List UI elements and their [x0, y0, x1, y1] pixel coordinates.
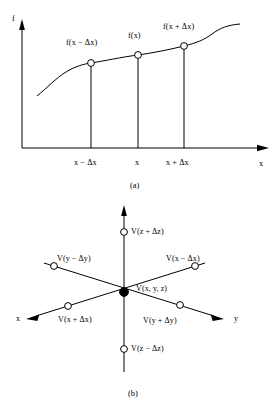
panel-b-label-y-plus: V(y + Δy)	[143, 317, 177, 325]
panel-a-caption: (a)	[130, 181, 139, 190]
panel-a-x-tick-label-3: x + Δx	[166, 159, 189, 167]
panel-b-y-axis-label: y	[234, 315, 238, 323]
panel-b-z-axis-arrowhead	[121, 205, 127, 216]
panel-b-label-center: V(x, y, z)	[136, 285, 167, 293]
panel-a-point-marker-2	[135, 52, 142, 59]
panel-b-label-y-minus: V(y − Δy)	[57, 255, 91, 263]
panel-a-graphics	[19, 19, 269, 151]
panel-b-node-x-plus	[65, 303, 72, 310]
panel-b-label-z-plus: V(z + Δz)	[131, 228, 164, 236]
panel-a-y-axis-arrowhead	[19, 19, 25, 30]
panel-b-label-x-plus: V(x + Δx)	[58, 316, 92, 324]
panel-a-point-marker-3	[181, 43, 188, 50]
panel-b-caption: (b)	[128, 389, 138, 398]
panel-b-node-y-minus	[51, 263, 58, 270]
panel-b-x-axis-arrowhead	[26, 315, 39, 321]
panel-a-point-label-3: f(x + Δx)	[163, 23, 194, 31]
panel-a-point-label-2: f(x)	[128, 32, 141, 40]
panel-a-point-marker-1	[88, 60, 95, 67]
panel-a-x-axis-label: x	[259, 160, 263, 168]
panel-b-node-y-plus	[177, 302, 184, 309]
panel-a-x-tick-label-2: x	[135, 159, 139, 167]
panel-a-point-label-1: f(x − Δx)	[66, 39, 97, 47]
panel-b-node-z-plus	[121, 229, 128, 236]
panel-a-x-axis-arrowhead	[257, 145, 269, 151]
panel-b-node-center	[120, 288, 129, 297]
panel-b-x-axis-label: x	[16, 315, 20, 323]
panel-a-y-axis-label: f	[12, 15, 15, 23]
panel-b-y-axis-arrowhead	[211, 315, 224, 321]
panel-b-node-x-minus	[192, 263, 199, 270]
figure-root: f x f(x − Δx) f(x) f(x + Δx) x − Δx x x …	[0, 0, 278, 411]
panel-b-label-x-minus: V(x − Δx)	[166, 255, 200, 263]
panel-a-x-tick-label-1: x − Δx	[74, 159, 97, 167]
panel-b-node-z-minus	[121, 346, 128, 353]
panel-b-graphics	[26, 205, 224, 372]
panel-b-label-z-minus: V(z − Δz)	[131, 345, 164, 353]
